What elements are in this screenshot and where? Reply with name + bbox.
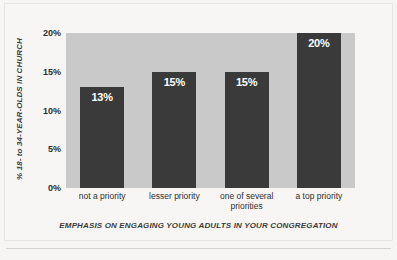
bar-value-label: 15% [236,76,257,188]
bar-value-label: 20% [308,37,329,188]
y-axis-label: % 18- to 34-YEAR-OLDS IN CHURCH [15,38,24,180]
y-axis-tick-label: 20% [43,28,61,38]
y-axis-tick-label: 5% [48,144,61,154]
chart-figure: % 18- to 34-YEAR-OLDS IN CHURCH 20%15%10… [0,0,397,260]
x-axis-category-label: lesser priority [138,191,210,201]
bar[interactable]: 15% [152,72,196,188]
y-axis-tick-label: 0% [48,183,61,193]
y-axis-tick-label: 15% [43,67,61,77]
y-axis-tick-labels: 20%15%10%5%0% [28,33,61,188]
bar[interactable]: 15% [225,72,269,188]
x-axis-category-label: one of severalpriorities [211,191,283,211]
bar[interactable]: 13% [80,87,124,188]
bar-value-label: 13% [91,91,112,188]
x-axis-title: EMPHASIS ON ENGAGING YOUNG ADULTS IN YOU… [0,221,397,230]
bar-series: 13%15%15%20% [66,33,355,188]
bottom-divider [6,248,391,249]
x-axis-category-label: not a priority [66,191,138,201]
plot-area: 13%15%15%20% [66,33,355,188]
x-axis-category-labels: not a prioritylesser priorityone of seve… [66,191,355,217]
x-axis-category-label: a top priority [283,191,355,201]
y-axis-label-container: % 18- to 34-YEAR-OLDS IN CHURCH [11,28,27,190]
bar[interactable]: 20% [297,33,341,188]
y-axis-tick-label: 10% [43,106,61,116]
bar-value-label: 15% [164,76,185,188]
